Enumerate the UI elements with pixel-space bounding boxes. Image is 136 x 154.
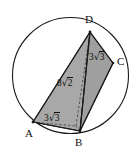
vertex-label-c: C <box>117 56 124 67</box>
edge-ad-radicand: 2 <box>67 77 73 88</box>
vertex-dot-a <box>32 121 35 124</box>
edge-length-label-ab: 3√3 <box>44 113 60 124</box>
vertex-dot-b <box>79 130 82 133</box>
edge-dc-radicand: 3 <box>99 51 105 62</box>
vertex-label-d: D <box>85 14 93 25</box>
edge-ab-radicand: 3 <box>54 112 60 123</box>
geometry-figure: D C B A 3√3 8√2 3√3 <box>0 0 136 154</box>
edge-length-label-ad: 8√2 <box>57 78 73 89</box>
vertex-label-b: B <box>75 137 82 148</box>
edge-length-label-dc: 3√3 <box>89 52 105 63</box>
vertex-dot-d <box>89 31 92 34</box>
vertex-dot-c <box>112 62 115 65</box>
vertex-label-a: A <box>25 128 33 139</box>
